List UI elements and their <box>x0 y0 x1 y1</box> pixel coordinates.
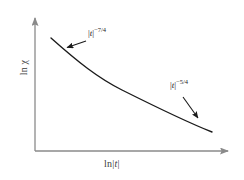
annotation-arrow-shallow <box>183 97 198 118</box>
annotation-exponent-shallow: |t|−5/4 <box>170 80 188 90</box>
x-axis-label: ln|t| <box>104 158 120 169</box>
plot-area <box>0 0 244 180</box>
y-axis-label: ln χ <box>18 51 29 85</box>
annotation-arrow-steep <box>67 41 86 48</box>
annotation-exponent-steep: |t|−7/4 <box>88 28 106 38</box>
x-axis-label-text: ln <box>104 158 112 169</box>
annotation-exponent-shallow-value: −5/4 <box>176 78 188 85</box>
annotation-exponent-steep-value: −7/4 <box>94 26 106 33</box>
chart-figure: ln χ ln|t| |t|−7/4 |t|−5/4 <box>0 0 244 180</box>
